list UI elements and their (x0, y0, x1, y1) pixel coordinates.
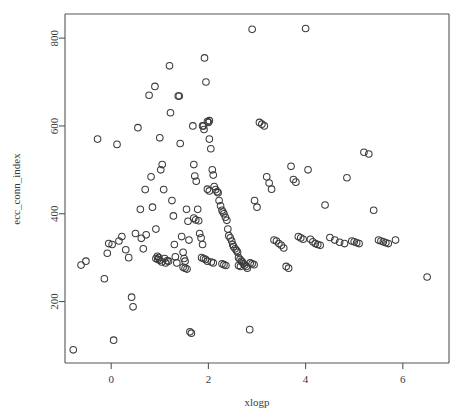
data-point (142, 186, 149, 193)
data-point (305, 167, 312, 174)
data-point (203, 79, 210, 86)
data-point (135, 124, 142, 131)
data-point (254, 204, 261, 211)
data-point (204, 186, 211, 193)
data-point (140, 246, 147, 253)
data-point (186, 237, 193, 244)
data-point (199, 241, 206, 248)
data-point (130, 304, 137, 311)
data-point (191, 161, 198, 168)
data-point (101, 275, 108, 282)
data-point (302, 25, 309, 32)
data-point (196, 230, 203, 237)
data-point (166, 63, 173, 70)
data-point (251, 197, 258, 204)
data-point (170, 213, 177, 220)
data-point (143, 232, 150, 239)
data-point (149, 204, 156, 211)
data-point (225, 226, 232, 233)
data-point (148, 174, 155, 181)
data-point (146, 92, 153, 99)
data-point (206, 188, 213, 195)
data-point (370, 207, 377, 214)
data-point (190, 123, 197, 130)
x-tick-label: 0 (108, 373, 114, 385)
data-point (169, 197, 176, 204)
data-point (198, 235, 205, 242)
data-point (177, 140, 184, 147)
x-axis-label: xlogp (244, 396, 270, 408)
data-point (188, 330, 195, 337)
data-point (152, 83, 159, 90)
data-point (70, 347, 77, 354)
y-axis-label: ecc_conn_index (10, 153, 22, 225)
data-point (194, 206, 201, 213)
data-point (392, 237, 399, 244)
plot-frame (65, 14, 449, 363)
data-point (156, 135, 163, 142)
data-point (201, 55, 208, 62)
data-point (266, 180, 273, 187)
y-tick-label: 200 (48, 293, 60, 310)
data-point (178, 233, 185, 240)
data-point (424, 274, 431, 281)
data-point (160, 186, 167, 193)
data-point (322, 202, 329, 209)
data-point (125, 254, 132, 261)
data-point (268, 186, 275, 193)
x-tick-label: 2 (206, 373, 212, 385)
data-point (180, 249, 187, 256)
data-point (249, 26, 256, 33)
y-axis-ticks: 200400600800 (48, 29, 65, 309)
data-point (246, 326, 253, 333)
data-point (128, 294, 135, 301)
data-points-layer (70, 25, 430, 353)
y-tick-label: 800 (48, 29, 60, 46)
data-point (114, 141, 121, 148)
data-point (122, 246, 129, 253)
data-point (288, 163, 295, 170)
x-tick-label: 4 (303, 373, 309, 385)
y-tick-label: 600 (48, 117, 60, 134)
data-point (110, 337, 117, 344)
data-point (132, 230, 139, 237)
data-point (174, 260, 181, 267)
data-point (206, 136, 213, 143)
data-point (83, 258, 90, 265)
y-tick-label: 400 (48, 205, 60, 222)
scatter-plot-figure: 0246 200400600800 xlogp ecc_conn_index (0, 0, 460, 420)
data-point (104, 250, 111, 257)
data-point (94, 136, 101, 143)
data-point (167, 109, 174, 116)
data-point (171, 241, 178, 248)
x-axis-ticks: 0246 (108, 363, 406, 385)
data-point (208, 145, 215, 152)
data-point (263, 174, 270, 181)
plot-canvas: 0246 200400600800 xlogp ecc_conn_index (0, 0, 460, 420)
data-point (183, 206, 190, 213)
data-point (153, 226, 160, 233)
data-point (344, 174, 351, 181)
data-point (172, 253, 179, 260)
data-point (137, 206, 144, 213)
x-tick-label: 6 (400, 373, 406, 385)
